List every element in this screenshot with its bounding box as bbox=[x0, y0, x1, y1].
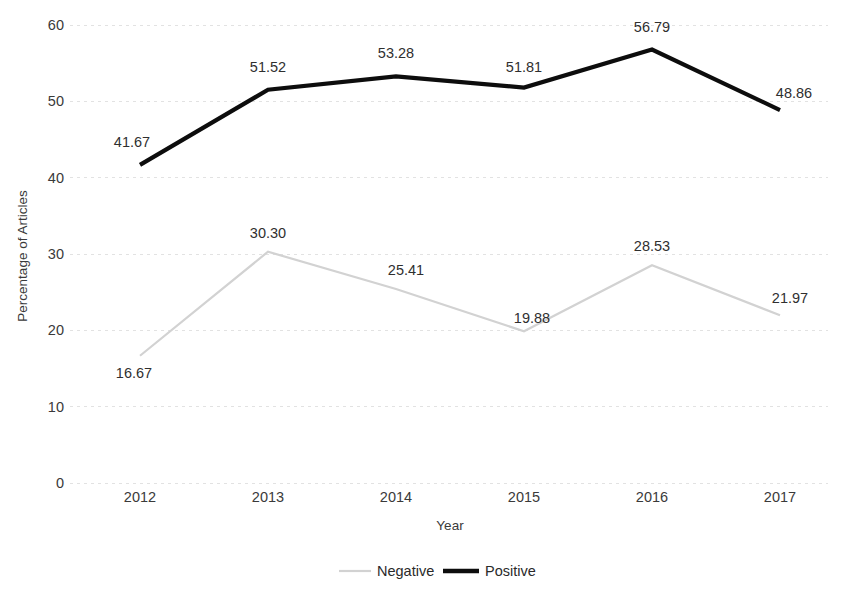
x-tick-label-2015: 2015 bbox=[508, 489, 540, 505]
data-label-negative-2012: 16.67 bbox=[116, 365, 152, 381]
y-tick-label-30: 30 bbox=[48, 246, 64, 262]
y-tick-label-40: 40 bbox=[48, 170, 64, 186]
legend-label-positive: Positive bbox=[485, 563, 536, 579]
data-label-negative-2016: 28.53 bbox=[634, 238, 670, 254]
data-label-negative-2017: 21.97 bbox=[772, 290, 808, 306]
y-tick-label-10: 10 bbox=[48, 399, 64, 415]
data-label-positive-2013: 51.52 bbox=[250, 59, 286, 75]
x-tick-label-2014: 2014 bbox=[380, 489, 412, 505]
y-tick-label-0: 0 bbox=[56, 475, 64, 491]
data-label-positive-2016: 56.79 bbox=[634, 19, 670, 35]
data-label-positive-2017: 48.86 bbox=[776, 85, 812, 101]
x-tick-label-2017: 2017 bbox=[764, 489, 796, 505]
data-label-negative-2013: 30.30 bbox=[250, 225, 286, 241]
data-label-positive-2014: 53.28 bbox=[378, 45, 414, 61]
y-axis-title: Percentage of Articles bbox=[15, 190, 30, 322]
x-tick-label-2012: 2012 bbox=[124, 489, 156, 505]
line-chart: 0102030405060 201220132014201520162017 P… bbox=[0, 0, 848, 589]
y-tick-label-60: 60 bbox=[48, 17, 64, 33]
data-label-positive-2015: 51.81 bbox=[506, 59, 542, 75]
y-tick-label-20: 20 bbox=[48, 322, 64, 338]
chart-canvas: 0102030405060 201220132014201520162017 P… bbox=[0, 0, 848, 589]
x-tick-label-2016: 2016 bbox=[636, 489, 668, 505]
y-tick-label-50: 50 bbox=[48, 93, 64, 109]
x-axis-title: Year bbox=[436, 518, 464, 533]
legend-label-negative: Negative bbox=[377, 563, 434, 579]
data-label-positive-2012: 41.67 bbox=[114, 134, 150, 150]
x-tick-label-2013: 2013 bbox=[252, 489, 284, 505]
data-label-negative-2014: 25.41 bbox=[388, 262, 424, 278]
data-label-negative-2015: 19.88 bbox=[514, 310, 550, 326]
